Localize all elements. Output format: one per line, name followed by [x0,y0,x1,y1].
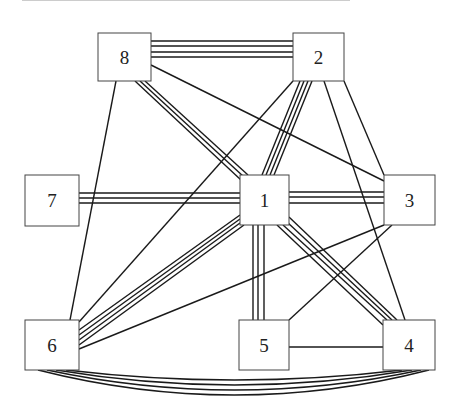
node-label: 1 [260,190,270,211]
edge-1-5 [253,225,264,320]
node-label: 4 [404,335,414,356]
edge-6-4-curved [38,370,429,395]
edge-2-3 [344,81,384,175]
edge-8-1 [135,81,248,180]
edge-1-6 [79,215,244,345]
edge-7-1 [79,193,240,203]
edge-3-6 [79,225,384,349]
node-label: 5 [259,335,269,356]
node-1: 1 [240,175,289,225]
node-6: 6 [25,320,79,370]
node-7: 7 [25,175,79,226]
node-4: 4 [383,320,435,370]
node-label: 2 [314,47,324,68]
edge-2-1 [262,81,312,175]
node-2: 2 [293,33,344,81]
node-label: 8 [120,47,130,68]
node-8: 8 [98,33,151,81]
node-5: 5 [239,320,289,370]
edges-layer [38,41,429,395]
edge-1-4 [277,217,397,325]
graph-diagram: 1 2 3 4 5 6 7 8 [0,0,467,417]
nodes-layer: 1 2 3 4 5 6 7 8 [25,33,435,370]
edge-1-3 [289,192,384,203]
node-label: 6 [47,335,57,356]
node-3: 3 [384,175,435,225]
node-label: 7 [47,190,57,211]
edge-8-2 [151,41,293,57]
node-label: 3 [405,190,415,211]
